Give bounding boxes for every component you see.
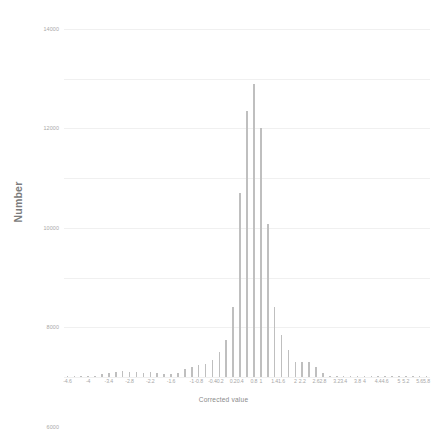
x-axis-tick-label: 2.8 xyxy=(319,378,326,384)
x-axis-tick-label: -1.6 xyxy=(167,378,176,384)
bar xyxy=(274,307,276,377)
x-axis-ticks: -4.6-4-3.4-2.8-2.2-1.6-1-0.8-0.4-0.20.20… xyxy=(64,378,430,390)
bar xyxy=(198,365,200,377)
bar xyxy=(398,376,400,377)
bar xyxy=(232,307,234,377)
x-axis-tick-label: 5.2 xyxy=(402,378,409,384)
bar xyxy=(80,376,82,377)
bar xyxy=(412,376,414,377)
y-axis-tick-label: 12000 xyxy=(44,125,60,131)
bar xyxy=(239,193,241,377)
bar xyxy=(371,376,373,377)
x-axis-tick-label: 1.6 xyxy=(278,378,285,384)
bar xyxy=(101,374,103,377)
y-axis-tick-label: 10000 xyxy=(44,225,60,231)
y-axis-tick-label: 8000 xyxy=(47,324,59,330)
bar xyxy=(426,376,428,377)
bar xyxy=(357,376,359,377)
bar xyxy=(191,367,193,377)
bar xyxy=(364,376,366,377)
bar xyxy=(391,376,393,377)
bar xyxy=(419,376,421,377)
bar xyxy=(225,340,227,377)
bar xyxy=(156,373,158,377)
x-axis-title: Corrected value xyxy=(0,396,447,403)
bar xyxy=(308,362,310,377)
x-axis-tick-label: 2.6 xyxy=(313,378,320,384)
x-axis-tick-label: -4 xyxy=(86,378,90,384)
y-axis-tick-label: 14000 xyxy=(44,26,60,32)
bar xyxy=(170,374,172,377)
bar xyxy=(177,373,179,377)
bar xyxy=(205,364,207,377)
x-axis-tick-label: 4.6 xyxy=(382,378,389,384)
bar xyxy=(336,376,338,377)
y-axis-title: Number xyxy=(12,167,24,237)
bar xyxy=(350,376,352,377)
x-axis-tick-label: 2.2 xyxy=(299,378,306,384)
x-axis-tick-label: 2 xyxy=(294,378,297,384)
x-axis-tick-label: 5 xyxy=(398,378,401,384)
x-axis-tick-label: 4 xyxy=(363,378,366,384)
bar xyxy=(94,376,96,377)
bar xyxy=(184,369,186,377)
x-axis-tick-label: -2.8 xyxy=(125,378,134,384)
x-axis-tick-label: -3.4 xyxy=(105,378,114,384)
bar xyxy=(260,128,262,377)
bar xyxy=(405,376,407,377)
x-axis-tick-label: 5.8 xyxy=(423,378,430,384)
x-axis-tick-label: 3.4 xyxy=(340,378,347,384)
x-axis-tick-label: 0.2 xyxy=(230,378,237,384)
bar xyxy=(163,374,165,377)
bar xyxy=(329,376,331,377)
bar xyxy=(136,372,138,377)
histogram-chart: Number 02000400060008000100001200014000 … xyxy=(0,0,447,430)
x-axis-tick-label: -1 xyxy=(190,378,194,384)
bar xyxy=(315,367,317,377)
bar xyxy=(322,373,324,377)
bar xyxy=(108,373,110,377)
x-axis-tick-label: -4.6 xyxy=(63,378,72,384)
x-axis-tick-label: 1.4 xyxy=(271,378,278,384)
bar xyxy=(150,372,152,377)
x-axis-tick-label: 3.8 xyxy=(354,378,361,384)
bar xyxy=(143,373,145,377)
bar xyxy=(67,376,69,377)
bar xyxy=(122,371,124,377)
bar xyxy=(343,376,345,377)
bar xyxy=(87,376,89,377)
bar xyxy=(115,372,117,377)
plot-area: 02000400060008000100001200014000 xyxy=(64,29,430,377)
x-axis-tick-label: 4.4 xyxy=(375,378,382,384)
bar xyxy=(219,352,221,377)
y-axis-tick-label: 6000 xyxy=(47,424,59,430)
bar xyxy=(288,350,290,377)
bar-series xyxy=(64,29,430,377)
x-axis-tick-label: 5.6 xyxy=(416,378,423,384)
x-axis-tick-label: -0.8 xyxy=(194,378,203,384)
x-axis-tick-label: -2.2 xyxy=(146,378,155,384)
bar xyxy=(267,224,269,377)
bar xyxy=(129,372,131,377)
bar xyxy=(253,84,255,377)
bar xyxy=(74,376,76,377)
x-axis-tick-label: 1 xyxy=(259,378,262,384)
bar xyxy=(377,376,379,377)
bar xyxy=(295,362,297,377)
bar xyxy=(212,360,214,377)
bar xyxy=(281,335,283,377)
bar xyxy=(246,111,248,377)
bar xyxy=(301,362,303,377)
bar xyxy=(384,376,386,377)
x-axis-tick-label: 3.2 xyxy=(333,378,340,384)
x-axis-tick-label: -0.2 xyxy=(215,378,224,384)
x-axis-tick-label: 0.4 xyxy=(237,378,244,384)
x-axis-tick-label: 0.8 xyxy=(250,378,257,384)
